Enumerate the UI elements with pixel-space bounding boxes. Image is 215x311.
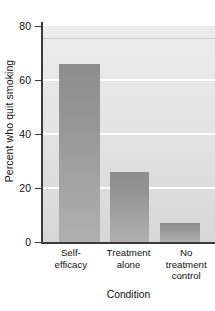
x-tick-label-self-efficacy: Self- efficacy bbox=[42, 247, 100, 289]
y-tick-label-60: 60 bbox=[5, 74, 31, 86]
x-axis-title: Condition bbox=[42, 289, 215, 300]
x-tick-label-treatment-alone-line-2: alone bbox=[100, 259, 158, 271]
x-axis-line bbox=[41, 242, 215, 244]
x-tick-label-no-treatment-control: No treatment control bbox=[157, 247, 215, 289]
y-axis-title: Percent who quit smoking bbox=[0, 0, 18, 242]
bar-self-efficacy bbox=[59, 64, 100, 242]
x-tick-label-treatment-alone-line-1: Treatment bbox=[100, 247, 158, 259]
y-tick-label-80: 80 bbox=[5, 20, 31, 32]
x-tick-labels: Self- efficacy Treatment alone No treatm… bbox=[42, 247, 215, 289]
y-tick-mark-60 bbox=[35, 80, 42, 82]
y-tick-label-40: 40 bbox=[5, 128, 31, 140]
y-tick-mark-80 bbox=[35, 26, 42, 28]
bar-chart-figure: Percent who quit smoking 0 20 40 60 80 S… bbox=[0, 0, 215, 311]
x-tick-label-no-treatment-control-line-2: treatment bbox=[157, 259, 215, 271]
y-tick-mark-20 bbox=[35, 188, 42, 190]
x-tick-label-no-treatment-control-line-1: No bbox=[157, 247, 215, 259]
bar-treatment-alone bbox=[110, 172, 149, 242]
scan-artifact-line bbox=[42, 38, 215, 39]
x-tick-label-treatment-alone: Treatment alone bbox=[100, 247, 158, 289]
y-tick-label-0: 0 bbox=[5, 236, 31, 248]
y-tick-label-20: 20 bbox=[5, 182, 31, 194]
x-tick-label-self-efficacy-line-2: efficacy bbox=[42, 259, 100, 271]
plot-area bbox=[42, 26, 215, 242]
y-tick-mark-40 bbox=[35, 134, 42, 136]
bar-no-treatment-control bbox=[160, 223, 200, 242]
y-tick-mark-0 bbox=[35, 242, 42, 244]
x-tick-label-self-efficacy-line-1: Self- bbox=[42, 247, 100, 259]
x-tick-label-no-treatment-control-line-3: control bbox=[157, 270, 215, 282]
